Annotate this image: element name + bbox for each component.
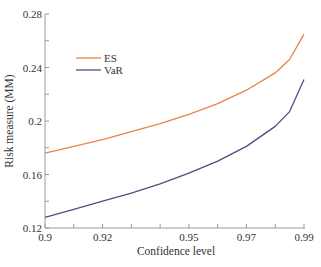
legend: ESVaR [76,52,124,76]
y-tick-label: 0.2 [28,115,42,127]
x-axis-title: Confidence level [137,245,215,257]
series-es-line [45,34,304,153]
legend-label-var: VaR [104,64,124,76]
legend-label-es: ES [104,52,117,64]
x-tick-label: 0.99 [294,231,314,243]
x-tick-label: 0.92 [93,231,112,243]
x-tick-label: 0.97 [237,231,257,243]
series-var-line [45,80,304,218]
axes: 0.90.920.950.970.990.120.160.20.240.28 [23,8,314,243]
line-chart: 0.90.920.950.970.990.120.160.20.240.28 E… [0,0,321,267]
y-tick-label: 0.12 [23,222,42,234]
y-tick-label: 0.24 [23,62,43,74]
y-tick-label: 0.28 [23,8,43,20]
x-tick-label: 0.95 [179,231,199,243]
series-lines [45,34,304,217]
y-tick-label: 0.16 [23,169,43,181]
y-axis-title: Risk measure (MM) [3,74,16,167]
